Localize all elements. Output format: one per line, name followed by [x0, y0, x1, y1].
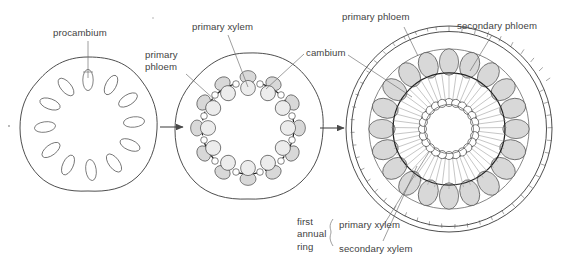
- interfascicular-cell: [201, 137, 208, 144]
- vascular-bundle: [280, 120, 305, 136]
- interfascicular-cell: [201, 113, 208, 120]
- vascular-bundle: [240, 160, 256, 185]
- label-first-annual-ring-line1: first: [297, 216, 326, 228]
- stage3-primary-xylem-scallops: [418, 98, 479, 159]
- bundle-xylem: [200, 121, 215, 136]
- label-first-annual-ring-line3: ring: [297, 241, 326, 253]
- pith-boundary: [425, 105, 474, 154]
- interfascicular-cell: [212, 92, 219, 99]
- interfascicular-cell: [289, 113, 296, 120]
- procambium-strand: [38, 95, 61, 112]
- procambium-strand: [118, 136, 142, 154]
- stage-1-procambium: [20, 41, 157, 191]
- label-primary-xylem-stage3: primary xylem: [339, 219, 400, 231]
- vascular-bundle: [212, 74, 238, 104]
- phloem-lobe: [439, 49, 458, 75]
- leader-primary-xylem-stage2: [228, 35, 248, 87]
- vascular-bundle: [194, 92, 224, 118]
- procambium-strand: [84, 159, 97, 181]
- vascular-bundle: [257, 152, 283, 182]
- procambium-strand: [39, 139, 62, 160]
- interfascicular-cell: [257, 169, 264, 176]
- procambium-strand: [103, 151, 124, 174]
- label-procambium: procambium: [53, 27, 107, 39]
- procambium-strand: [101, 73, 120, 97]
- procambium-strand: [123, 116, 145, 129]
- stage1-procambium-strands: [34, 69, 145, 181]
- label-primary-xylem-stage2: primary xylem: [192, 21, 253, 33]
- phloem-lobe: [369, 119, 395, 138]
- label-primary-phloem-stage2-line2: phloem: [145, 61, 178, 73]
- figure-root: procambium primary phloem primary xylem …: [0, 0, 563, 276]
- stem-growth-diagram: [0, 0, 563, 276]
- interfascicular-cell: [212, 158, 219, 165]
- procambium-strand: [55, 76, 77, 99]
- interfascicular-cell: [278, 158, 285, 165]
- procambium-strand: [34, 120, 56, 133]
- stage-2-primary-vascular: [175, 35, 323, 199]
- interfascicular-cell: [233, 81, 240, 88]
- bundle-xylem: [241, 80, 256, 95]
- procambium-strand: [116, 90, 139, 110]
- vascular-bundle: [212, 152, 238, 182]
- stage-3-secondary-growth: [330, 26, 552, 246]
- vascular-bundle: [194, 137, 224, 163]
- interfascicular-cell: [233, 169, 240, 176]
- vascular-bundle: [257, 74, 283, 104]
- interfascicular-cell: [257, 81, 264, 88]
- stage2-vascular-bundles: [191, 71, 306, 186]
- label-primary-phloem-stage3: primary phloem: [342, 11, 410, 23]
- label-first-annual-ring: first annual ring: [297, 216, 326, 253]
- interfascicular-cell: [289, 137, 296, 144]
- vascular-bundle: [240, 71, 256, 96]
- label-secondary-phloem-stage3: secondary phloem: [457, 20, 537, 32]
- bundle-xylem: [280, 121, 295, 136]
- procambium-strand: [59, 153, 77, 177]
- label-first-annual-ring-line2: annual: [297, 228, 326, 240]
- bundle-xylem: [241, 160, 256, 175]
- phloem-lobe: [503, 119, 529, 138]
- label-primary-phloem-stage2: primary phloem: [145, 49, 178, 74]
- annual-ring-brace: [330, 219, 333, 246]
- vascular-bundle: [191, 120, 216, 136]
- vascular-bundle: [272, 137, 302, 163]
- label-cambium: cambium: [306, 47, 346, 59]
- vascular-bundle: [272, 92, 302, 118]
- label-primary-phloem-stage2-line1: primary: [145, 49, 178, 61]
- label-secondary-xylem-stage3: secondary xylem: [339, 243, 412, 255]
- interfascicular-cell: [278, 92, 285, 99]
